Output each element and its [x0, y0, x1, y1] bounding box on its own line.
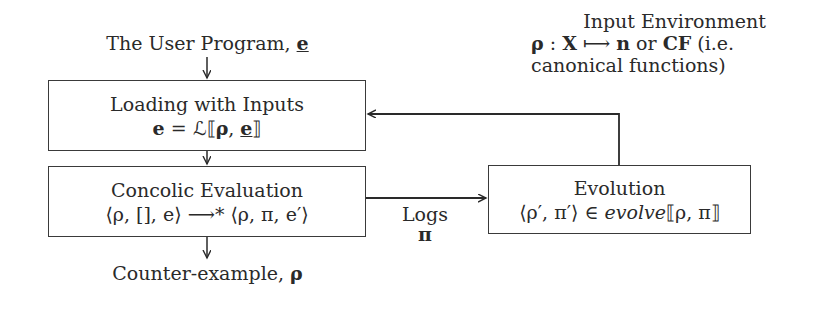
- counter-example-symbol: ρ: [290, 262, 303, 284]
- logs-label: Logs π: [390, 204, 460, 244]
- env-or: or: [630, 32, 663, 54]
- environment-line3: canonical functions): [531, 54, 828, 76]
- concolic-box-formula: ⟨ρ, [], e⟩ ⟶* ⟨ρ, π, e′⟩: [105, 202, 308, 226]
- user-program-symbol: e: [297, 32, 309, 54]
- environment-title: Input Environment: [543, 10, 828, 32]
- env-n: n: [616, 32, 630, 54]
- counter-example-label: Counter-example, ρ: [70, 262, 345, 284]
- loading-with-inputs-box: Loading with Inputs e = ℒ⟦ρ, e⟧: [48, 80, 366, 151]
- environment-signature: ρ : X ⟼ n or CF (i.e.: [531, 32, 828, 54]
- evolve-fn: evolve: [605, 201, 666, 223]
- env-colon: :: [544, 32, 562, 54]
- evolution-box-title: Evolution: [574, 176, 666, 200]
- evolve-result: ⟨ρ′, π′⟩ ∈: [519, 201, 604, 223]
- formula-e: e: [153, 117, 165, 139]
- formula-rho: ρ: [216, 117, 229, 139]
- user-program-label: The User Program, e: [70, 32, 345, 54]
- counter-example-text: Counter-example,: [112, 262, 290, 284]
- loading-box-title: Loading with Inputs: [110, 92, 304, 116]
- logs-text: Logs: [390, 204, 460, 224]
- concolic-box-title: Concolic Evaluation: [111, 178, 303, 202]
- env-tail: (i.e.: [691, 32, 734, 54]
- evolve-args: ⟦ρ, π⟧: [666, 201, 720, 223]
- env-maps-to: ⟼: [577, 32, 616, 54]
- concolic-evaluation-box: Concolic Evaluation ⟨ρ, [], e⟩ ⟶* ⟨ρ, π,…: [48, 166, 366, 237]
- formula-close: ⟧: [252, 117, 261, 139]
- formula-loader: = ℒ⟦: [165, 117, 216, 139]
- env-X: X: [562, 32, 577, 54]
- input-environment-note: Input Environment ρ : X ⟼ n or CF (i.e. …: [543, 10, 828, 76]
- formula-program: e: [240, 117, 252, 139]
- evolution-box: Evolution ⟨ρ′, π′⟩ ∈ evolve⟦ρ, π⟧: [488, 165, 751, 234]
- arrow-feedback: [368, 114, 619, 165]
- logs-symbol: π: [390, 224, 460, 244]
- env-CF: CF: [663, 32, 692, 54]
- env-rho: ρ: [531, 32, 544, 54]
- loading-box-formula: e = ℒ⟦ρ, e⟧: [153, 116, 262, 140]
- formula-comma: ,: [228, 117, 240, 139]
- user-program-text: The User Program,: [106, 32, 296, 54]
- evolution-box-formula: ⟨ρ′, π′⟩ ∈ evolve⟦ρ, π⟧: [519, 200, 720, 224]
